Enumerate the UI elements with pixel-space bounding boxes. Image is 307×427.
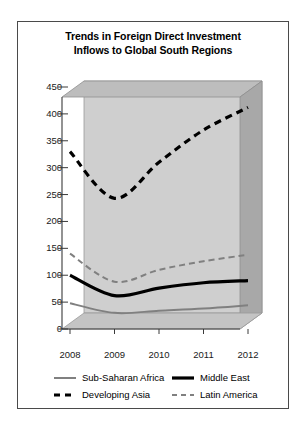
x-axis-tick-label: 2009 bbox=[104, 349, 125, 360]
legend-swatch-dashed bbox=[54, 390, 76, 400]
legend-swatch-solid bbox=[172, 373, 194, 383]
chart-title-line-1: Trends in Foreign Direct Investment bbox=[18, 29, 288, 43]
chart-figure: Trends in Foreign Direct Investment Infl… bbox=[17, 21, 289, 409]
x-axis-tick-label: 2011 bbox=[193, 349, 213, 360]
x-axis-tick-label: 2012 bbox=[237, 349, 258, 360]
legend-label: Latin America bbox=[200, 389, 258, 400]
chart-plot-face bbox=[62, 97, 240, 329]
x-axis-tick-label: 2008 bbox=[59, 349, 80, 360]
legend-label: Middle East bbox=[200, 372, 250, 383]
legend-item[interactable]: Latin America bbox=[172, 387, 258, 402]
chart-plot-svg bbox=[30, 65, 278, 347]
legend-label: Developing Asia bbox=[82, 389, 150, 400]
legend-item[interactable]: Developing Asia bbox=[54, 387, 150, 402]
chart-title-line-2: Inflows to Global South Regions bbox=[18, 43, 288, 57]
legend-swatch-dashed bbox=[172, 390, 194, 400]
legend-label: Sub-Saharan Africa bbox=[82, 372, 164, 383]
chart-top-wall bbox=[62, 81, 262, 97]
chart-side-wall bbox=[240, 81, 262, 329]
plot-area bbox=[30, 65, 278, 347]
chart-3d-walls bbox=[62, 81, 262, 329]
legend-swatch-solid bbox=[54, 373, 76, 383]
x-axis-tick-labels: 20082009201020112012 bbox=[30, 349, 278, 365]
legend-item[interactable]: Sub-Saharan Africa bbox=[54, 370, 164, 385]
chart-title: Trends in Foreign Direct Investment Infl… bbox=[18, 29, 288, 57]
x-axis-tick-label: 2010 bbox=[148, 349, 169, 360]
chart-legend: Sub-Saharan AfricaMiddle EastDeveloping … bbox=[32, 370, 278, 404]
legend-item[interactable]: Middle East bbox=[172, 370, 250, 385]
